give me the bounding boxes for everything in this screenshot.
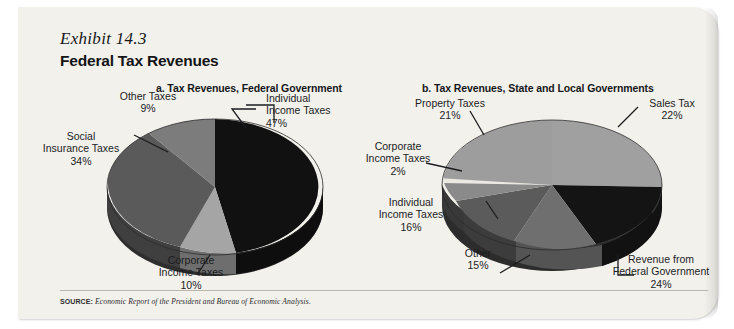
pie-b-slice-sales <box>552 120 662 187</box>
exhibit-card: Exhibit 14.3 Federal Tax Revenues a. Tax… <box>18 7 718 319</box>
source-note: SOURCE: Economic Report of the President… <box>60 297 311 306</box>
source-divider <box>60 290 708 291</box>
source-label: SOURCE: <box>60 298 93 305</box>
pie-chart-federal: Other Taxes 9% Social Insurance Taxes 34… <box>50 95 380 290</box>
exhibit-figure: Exhibit 14.3 Federal Tax Revenues a. Tax… <box>0 0 734 329</box>
callout-individual-income-taxes: Individual Income Taxes 16% <box>362 196 460 233</box>
page-title: Federal Tax Revenues <box>60 52 219 70</box>
callout-corporate-income-taxes: Corporate Income Taxes 10% <box>139 254 243 291</box>
callout-individual-income-taxes: Individual Income Taxes 47% <box>266 92 370 129</box>
callout-sales-tax: Sales Tax 22% <box>628 97 716 122</box>
callout-property-taxes: Property Taxes 21% <box>401 97 499 122</box>
callout-other-taxes: Other Taxes 9% <box>102 90 194 115</box>
callout-other: Other 15% <box>446 247 510 272</box>
callout-revenue-from-federal-government: Revenue from Federal Government 24% <box>604 253 718 290</box>
exhibit-number: Exhibit 14.3 <box>60 29 147 49</box>
pie-b-slice-property <box>443 120 552 185</box>
source-text: Economic Report of the President and Bur… <box>95 297 311 306</box>
chart-b-title: b. Tax Revenues, State and Local Governm… <box>422 82 654 94</box>
callout-corporate-income-taxes: Corporate Income Taxes 2% <box>358 140 438 177</box>
pie-chart-state-local: Property Taxes 21% Sales Tax 22% Corpora… <box>366 95 726 290</box>
callout-social-insurance-taxes: Social Insurance Taxes 34% <box>28 130 134 167</box>
